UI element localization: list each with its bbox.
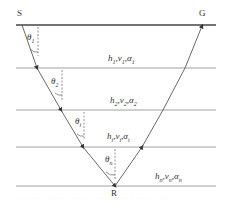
layer-label-1: h1,v1,α1 — [108, 54, 135, 65]
angle-label-1: θ1 — [27, 33, 34, 44]
figure-caption: · · · · · · · · · · · · · · · · · · · · … — [18, 196, 218, 202]
source-label: S — [17, 9, 22, 18]
normal-lines — [38, 27, 115, 180]
angle-label-i: θi — [75, 117, 81, 128]
receiver-label: G — [199, 9, 206, 18]
downgoing-ray — [22, 25, 115, 186]
angle-label-n: θn — [105, 155, 112, 166]
layer-label-2: h2,v2,α2 — [110, 96, 137, 107]
angle-label-2: θ2 — [51, 77, 58, 88]
layer-label-n: hn,vn,αn — [155, 172, 182, 183]
layer-label-i: hi,vi,αi — [107, 132, 130, 143]
ray-path-diagram: S G R θ1 θ2 θi θn h1,v1,α1 h2,v2,α2 hi,v… — [0, 0, 226, 206]
